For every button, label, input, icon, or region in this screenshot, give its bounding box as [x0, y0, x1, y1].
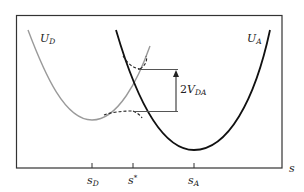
tick-label-s-d-sub: D	[93, 179, 99, 188]
tick-label-s-star-sup: *	[134, 174, 138, 182]
label-2vda-sub: DA	[195, 88, 206, 97]
dashed-transition-lower-right	[133, 111, 142, 118]
tick-label-s-a: sA	[188, 175, 199, 188]
tick-label-s-d: sD	[87, 175, 99, 188]
axis-label-s: s	[289, 163, 295, 174]
label-u-a-main: U	[247, 32, 256, 45]
energy-curves-svg	[0, 0, 304, 192]
label-u-d-main: U	[40, 32, 49, 45]
tick-label-s-star: s*	[128, 175, 137, 186]
diagram-canvas: UD UA 2VDA sD s* sA s	[0, 0, 304, 192]
label-2vda-main: V	[187, 83, 195, 96]
label-u-a: UA	[247, 33, 262, 46]
label-2vda: 2VDA	[180, 84, 206, 97]
label-u-d-sub: D	[49, 37, 55, 46]
tick-label-s-a-sub: A	[194, 179, 199, 188]
label-u-a-sub: A	[256, 37, 261, 46]
gap-arrow-head-icon	[173, 70, 179, 77]
label-u-d: UD	[40, 33, 55, 46]
axis-label-s-text: s	[289, 162, 295, 175]
label-2vda-prefix: 2	[180, 83, 187, 96]
